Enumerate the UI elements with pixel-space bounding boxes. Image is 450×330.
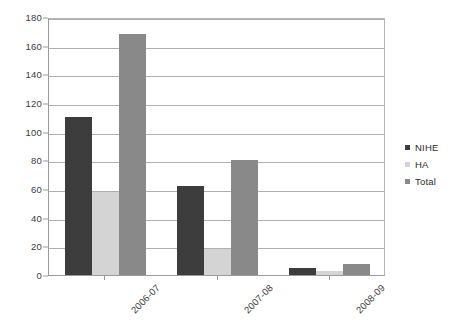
x-axis-tick-mark xyxy=(329,276,330,280)
bar xyxy=(289,268,316,275)
bars-layer xyxy=(49,19,384,275)
y-axis-tick-label: 60 xyxy=(31,185,42,195)
legend-swatch-icon xyxy=(405,179,410,184)
y-axis-tick-label: 20 xyxy=(31,242,42,252)
y-axis-tick-label: 40 xyxy=(31,214,42,224)
y-axis-tick-label: 160 xyxy=(26,42,42,52)
y-axis-tick-label: 180 xyxy=(26,13,42,23)
x-axis-tick-mark xyxy=(104,276,105,280)
y-axis: 020406080100120140160180 xyxy=(0,18,48,276)
bar-group xyxy=(177,19,258,275)
x-axis-tick-label: 2006-07 xyxy=(129,282,162,315)
legend-label: Total xyxy=(415,176,436,187)
x-axis: 2006-072007-082008-09 xyxy=(48,276,385,330)
bar xyxy=(343,264,370,275)
legend-swatch-icon xyxy=(405,145,410,150)
x-axis-tick-label: 2007-08 xyxy=(241,282,274,315)
legend-label: NIHE xyxy=(415,142,439,153)
y-axis-tick-label: 140 xyxy=(26,70,42,80)
y-axis-tick-label: 120 xyxy=(26,99,42,109)
y-axis-tick-label: 80 xyxy=(31,156,42,166)
legend: NIHEHATotal xyxy=(405,140,450,191)
bar xyxy=(231,160,258,275)
y-axis-tick-label: 0 xyxy=(37,271,42,281)
legend-swatch-icon xyxy=(405,162,410,167)
legend-label: HA xyxy=(415,159,429,170)
bar-group xyxy=(289,19,370,275)
bar xyxy=(119,34,146,275)
plot-area xyxy=(48,18,385,276)
legend-item[interactable]: NIHE xyxy=(405,140,450,155)
bar xyxy=(92,192,119,275)
x-axis-tick-label: 2008-09 xyxy=(353,282,386,315)
legend-item[interactable]: HA xyxy=(405,157,450,172)
legend-item[interactable]: Total xyxy=(405,174,450,189)
bar xyxy=(65,117,92,275)
bar xyxy=(204,249,231,275)
bar xyxy=(177,186,204,275)
y-axis-tick-label: 100 xyxy=(26,128,42,138)
bar-group xyxy=(65,19,146,275)
bar-chart: 020406080100120140160180 2006-072007-082… xyxy=(0,0,450,330)
x-axis-tick-mark xyxy=(217,276,218,280)
bar xyxy=(316,271,343,275)
